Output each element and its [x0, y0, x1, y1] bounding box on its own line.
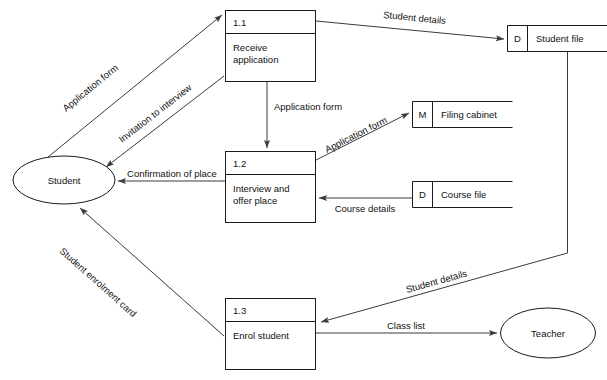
- process-1-2-number: 1.2: [233, 158, 246, 169]
- student-file-label: Student file: [536, 33, 584, 44]
- student-label: Student: [48, 175, 81, 186]
- process-1-1[interactable]: 1.1 Receive application: [226, 11, 316, 82]
- flow-5-label: Application form: [323, 114, 389, 155]
- process-1-3-number: 1.3: [233, 305, 246, 316]
- process-1-1-name-line1: Receive: [233, 42, 267, 53]
- course-file-code: D: [419, 189, 426, 200]
- filing-cabinet-code: M: [419, 109, 427, 120]
- flow-3-label: Student details: [383, 9, 447, 26]
- flow-9-label: Student details: [405, 267, 469, 294]
- process-1-3[interactable]: 1.3 Enrol student: [226, 299, 316, 370]
- flow-confirmation-of-place[interactable]: Confirmation of place: [118, 168, 225, 181]
- flow-student-details-to-student-file[interactable]: Student details: [316, 9, 504, 39]
- flow-application-form-to-filing-cabinet[interactable]: Application form: [316, 113, 409, 160]
- process-1-1-number: 1.1: [233, 17, 246, 28]
- course-file-label: Course file: [441, 189, 486, 200]
- external-entity-teacher[interactable]: Teacher: [501, 308, 596, 358]
- flow-7-label: Course details: [335, 203, 396, 214]
- flow-1-line: [48, 15, 222, 157]
- flow-6-label: Confirmation of place: [127, 168, 217, 179]
- flow-student-details-to-enrol[interactable]: Student details: [321, 52, 568, 322]
- process-1-3-name-line1: Enrol student: [233, 330, 289, 341]
- data-store-student-file[interactable]: D Student file: [508, 26, 607, 52]
- flow-3-line: [316, 21, 504, 39]
- data-flow-diagram-canvas: Student Teacher 1.1 Receive application …: [0, 0, 607, 380]
- flow-4-label-line1: Application form: [274, 101, 342, 112]
- filing-cabinet-label: Filing cabinet: [441, 109, 497, 120]
- external-entity-student[interactable]: Student: [13, 156, 115, 204]
- flow-invitation-to-interview[interactable]: Invitation to interview: [106, 76, 224, 167]
- flow-student-enrolment-card[interactable]: Student enrolment card: [58, 208, 224, 336]
- flow-10-label: Class list: [387, 320, 425, 331]
- data-store-course-file[interactable]: D Course file: [413, 182, 513, 208]
- flow-class-list[interactable]: Class list: [316, 320, 497, 333]
- data-store-filing-cabinet[interactable]: M Filing cabinet: [413, 102, 513, 128]
- flow-8-line: [80, 208, 224, 336]
- process-1-1-name-line2: application: [233, 54, 278, 65]
- student-file-code: D: [514, 33, 521, 44]
- flow-8-label: Student enrolment card: [58, 245, 139, 319]
- teacher-label: Teacher: [531, 328, 565, 339]
- flow-2-line: [106, 76, 224, 167]
- dfd-svg: Student Teacher 1.1 Receive application …: [0, 0, 607, 380]
- process-1-2-name-line1: Interview and: [233, 183, 290, 194]
- process-1-2[interactable]: 1.2 Interview and offer place: [226, 152, 316, 223]
- flow-course-details[interactable]: Course details: [319, 198, 412, 214]
- flow-application-form-process-to-process[interactable]: Application form: [267, 82, 342, 148]
- flow-application-form-student-to-process[interactable]: Application form: [48, 15, 222, 157]
- process-1-2-name-line2: offer place: [233, 195, 277, 206]
